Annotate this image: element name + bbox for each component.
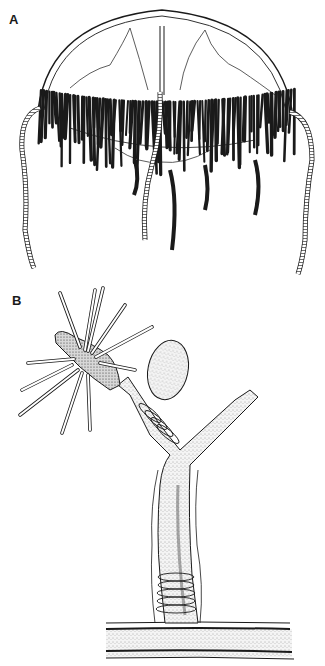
marginal-tentacle bbox=[174, 102, 175, 154]
long-tentacle bbox=[134, 160, 137, 195]
marginal-tentacle bbox=[94, 98, 95, 127]
marginal-tentacle bbox=[187, 102, 188, 138]
marginal-tentacle bbox=[122, 101, 124, 145]
marginal-tentacle bbox=[101, 99, 103, 147]
marginal-tentacle bbox=[134, 101, 135, 162]
marginal-tentacle bbox=[207, 101, 209, 151]
marginal-tentacle bbox=[199, 101, 200, 139]
long-tentacle bbox=[170, 170, 175, 250]
marginal-tentacle bbox=[45, 91, 46, 137]
marginal-tentacle bbox=[272, 93, 273, 135]
marginal-tentacle bbox=[110, 100, 111, 135]
marginal-tentacle bbox=[179, 102, 181, 160]
long-tentacle bbox=[205, 165, 208, 210]
gonad-right bbox=[180, 30, 275, 95]
marginal-tentacle bbox=[89, 98, 91, 160]
stolon bbox=[106, 622, 294, 659]
marginal-tentacle bbox=[238, 98, 240, 168]
hydroid-illustration bbox=[0, 285, 325, 666]
marginal-tentacle bbox=[78, 96, 79, 143]
gonophore bbox=[142, 336, 194, 403]
marginal-tentacle bbox=[244, 97, 245, 141]
gonad-left bbox=[70, 28, 148, 90]
marginal-tentacle bbox=[267, 94, 269, 122]
panel-a: A bbox=[0, 0, 325, 285]
marginal-tentacle bbox=[275, 93, 276, 138]
marginal-tentacle bbox=[205, 101, 206, 142]
marginal-tentacle bbox=[113, 100, 115, 167]
marginal-tentacle bbox=[147, 102, 149, 149]
medusa-illustration bbox=[0, 0, 325, 285]
marginal-tentacle bbox=[106, 99, 107, 166]
marginal-tentacle bbox=[218, 100, 219, 144]
marginal-tentacle bbox=[260, 95, 262, 127]
marginal-tentacle bbox=[216, 100, 217, 161]
long-tentacle bbox=[255, 160, 259, 215]
hydrocaulus bbox=[118, 377, 258, 623]
marginal-tentacle bbox=[184, 102, 185, 171]
marginal-tentacle bbox=[126, 101, 128, 135]
panel-b: B bbox=[0, 285, 325, 666]
